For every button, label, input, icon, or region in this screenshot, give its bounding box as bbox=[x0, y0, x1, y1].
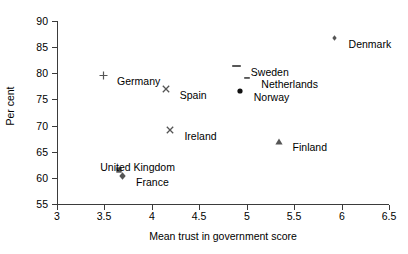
x-tick-label: 4 bbox=[132, 211, 172, 222]
x-axis-line bbox=[57, 204, 389, 205]
y-tick-label: 65 bbox=[20, 147, 48, 158]
y-tick-mark bbox=[52, 47, 57, 48]
data-point-label: Netherlands bbox=[261, 79, 318, 90]
triangle-marker-icon bbox=[272, 134, 286, 148]
y-tick-label: 70 bbox=[20, 121, 48, 132]
y-tick-label: 80 bbox=[20, 68, 48, 79]
x-tick-label: 4.5 bbox=[179, 211, 219, 222]
x-tick-label: 6 bbox=[322, 211, 362, 222]
data-point-label: Denmark bbox=[349, 39, 392, 50]
data-point-label: Spain bbox=[180, 90, 207, 101]
circle-marker-icon bbox=[233, 84, 247, 98]
y-tick-mark bbox=[52, 152, 57, 153]
scatter-chart: 5560657075808590 33.544.555.566.5 Per ce… bbox=[0, 0, 408, 254]
x-tick-label: 3.5 bbox=[84, 211, 124, 222]
data-point-label: France bbox=[136, 177, 169, 188]
y-tick-label: 55 bbox=[20, 199, 48, 210]
y-tick-label: 90 bbox=[20, 16, 48, 27]
cross-marker-icon bbox=[163, 123, 177, 137]
x-tick-label: 5 bbox=[227, 211, 267, 222]
x-axis-title: Mean trust in government score bbox=[57, 230, 389, 242]
diamond-marker-icon bbox=[115, 169, 129, 183]
y-tick-label: 60 bbox=[20, 173, 48, 184]
data-point-label: Germany bbox=[117, 76, 160, 87]
y-tick-mark bbox=[52, 126, 57, 127]
y-tick-mark bbox=[52, 178, 57, 179]
diamond-small-marker-icon bbox=[328, 31, 342, 45]
dash-short-marker-icon bbox=[240, 71, 254, 85]
data-point-label: Sweden bbox=[251, 67, 289, 78]
y-axis-line bbox=[57, 21, 58, 205]
x-tick-label: 3 bbox=[37, 211, 77, 222]
x-tick-label: 6.5 bbox=[369, 211, 408, 222]
y-axis-title: Per cent bbox=[4, 71, 16, 141]
data-point-label: Norway bbox=[254, 92, 290, 103]
data-point-label: Finland bbox=[293, 142, 327, 153]
data-point-label: United Kingdom bbox=[100, 162, 175, 173]
y-tick-mark bbox=[52, 73, 57, 74]
y-tick-mark bbox=[52, 21, 57, 22]
y-tick-label: 85 bbox=[20, 42, 48, 53]
y-tick-label: 75 bbox=[20, 94, 48, 105]
y-tick-mark bbox=[52, 99, 57, 100]
x-tick-label: 5.5 bbox=[274, 211, 314, 222]
cross-marker-icon bbox=[159, 82, 173, 96]
data-point-label: Ireland bbox=[184, 131, 216, 142]
plus-marker-icon bbox=[96, 68, 110, 82]
